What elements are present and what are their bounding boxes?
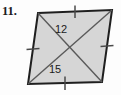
lower-diagonal-length-label: 15: [49, 63, 61, 75]
geometry-problem-figure: 11. 12 15: [0, 0, 121, 95]
upper-diagonal-length-label: 12: [55, 23, 67, 35]
rhombus-diagram: 12 15: [0, 0, 121, 95]
tick-mark-right-side-icon: [101, 46, 114, 47]
tick-mark-left-side-icon: [27, 49, 40, 50]
